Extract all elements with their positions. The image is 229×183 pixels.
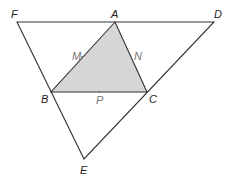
midpoint-p-dot <box>98 91 100 93</box>
label-b: B <box>41 93 48 105</box>
label-n: N <box>134 50 142 62</box>
geometry-diagram: F A D B C E M N P <box>0 0 229 183</box>
label-d: D <box>214 8 222 20</box>
label-m: M <box>72 50 82 62</box>
label-e: E <box>80 164 88 176</box>
midpoint-n-dot <box>130 56 132 58</box>
label-f: F <box>11 8 19 20</box>
label-c: C <box>149 93 157 105</box>
label-p: P <box>96 94 104 106</box>
label-a: A <box>110 8 118 20</box>
shaded-triangle-abc <box>51 22 147 92</box>
midpoint-m-dot <box>81 56 83 58</box>
